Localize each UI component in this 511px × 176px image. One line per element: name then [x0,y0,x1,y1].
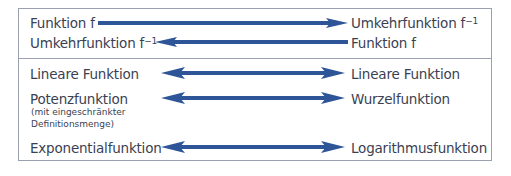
row4-right-label: Wurzelfunktion [351,91,450,107]
arrow-left-icon [155,37,348,47]
row3-left-label: Lineare Funktion [30,66,139,82]
row4-note-line2: Definitionsmenge) [31,118,114,130]
row3-right-label: Lineare Funktion [351,66,460,82]
row1-right-sup: −1 [465,16,478,26]
row1-left-label: Funktion f [30,15,95,31]
double-arrow-icon [161,141,345,153]
arrow-right-icon [98,18,348,28]
section-divider [18,58,492,59]
row2-right-label: Funktion f [351,35,416,51]
double-arrow-icon [161,67,345,79]
row1-right-text: Umkehrfunktion f [351,15,465,31]
row2-left-text: Umkehrfunktion f [30,35,144,51]
row4-left-label: Potenzfunktion [30,91,128,107]
double-arrow-icon [161,92,345,104]
row4-note-line1: (mit eingeschränkter [31,106,125,118]
row5-right-label: Logarithmusfunktion [351,140,487,156]
row1-right-label: Umkehrfunktion f−1 [351,15,478,31]
row2-left-label: Umkehrfunktion f−1 [30,35,157,51]
row1-left-text: Funktion f [30,15,95,31]
row5-left-label: Exponentialfunktion [30,140,162,156]
